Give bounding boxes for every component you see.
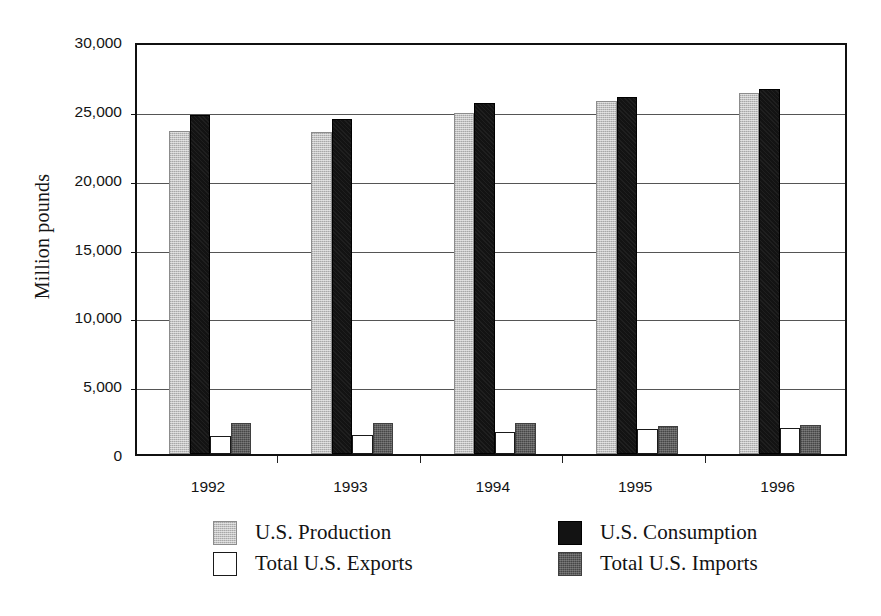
bars-layer bbox=[137, 45, 845, 454]
bar-production-1992 bbox=[169, 131, 190, 454]
x-tickmark bbox=[562, 456, 563, 463]
legend-label: Total U.S. Exports bbox=[255, 551, 413, 576]
bar-imports-1995 bbox=[658, 426, 679, 454]
legend-swatch-production-icon bbox=[213, 521, 237, 545]
bar-exports-1993 bbox=[352, 435, 373, 454]
bar-production-1994 bbox=[454, 113, 475, 454]
legend-swatch-imports-icon bbox=[558, 552, 582, 576]
bar-chart-figure: Million pounds 05,00010,00015,00020,0002… bbox=[0, 0, 881, 616]
bar-exports-1994 bbox=[495, 432, 516, 454]
x-tick-label: 1996 bbox=[760, 478, 794, 496]
legend-swatch-consumption-icon bbox=[558, 521, 582, 545]
bar-consumption-1993 bbox=[332, 119, 353, 454]
plot-area bbox=[135, 43, 847, 456]
bar-consumption-1995 bbox=[617, 97, 638, 454]
bar-consumption-1994 bbox=[474, 103, 495, 454]
chart-legend: U.S. ProductionU.S. ConsumptionTotal U.S… bbox=[213, 520, 773, 590]
legend-label: U.S. Consumption bbox=[600, 520, 757, 545]
bar-consumption-1996 bbox=[759, 89, 780, 454]
y-axis-tick-labels: 05,00010,00015,00020,00025,00030,000 bbox=[38, 43, 130, 456]
legend-item-production[interactable]: U.S. Production bbox=[213, 520, 391, 545]
x-tick-label: 1993 bbox=[333, 478, 367, 496]
legend-item-consumption[interactable]: U.S. Consumption bbox=[558, 520, 757, 545]
y-tick-label: 15,000 bbox=[75, 241, 122, 259]
y-tick-label: 30,000 bbox=[75, 34, 122, 52]
bar-imports-1996 bbox=[800, 425, 821, 454]
legend-swatch-exports-icon bbox=[213, 552, 237, 576]
x-tickmark bbox=[420, 456, 421, 463]
bar-consumption-1992 bbox=[190, 115, 211, 454]
bar-production-1993 bbox=[311, 132, 332, 454]
bar-exports-1992 bbox=[210, 436, 231, 454]
bar-production-1996 bbox=[739, 93, 760, 454]
bar-imports-1992 bbox=[231, 423, 252, 454]
bar-imports-1994 bbox=[515, 423, 536, 454]
x-tickmark bbox=[277, 456, 278, 463]
bar-exports-1996 bbox=[780, 428, 801, 454]
x-axis-tick-labels: 19921993199419951996 bbox=[135, 456, 847, 496]
legend-item-imports[interactable]: Total U.S. Imports bbox=[558, 551, 758, 576]
x-tick-label: 1992 bbox=[191, 478, 225, 496]
legend-label: Total U.S. Imports bbox=[600, 551, 758, 576]
y-tick-label: 25,000 bbox=[75, 103, 122, 121]
bar-production-1995 bbox=[596, 101, 617, 454]
x-tick-label: 1994 bbox=[476, 478, 510, 496]
x-tickmark bbox=[705, 456, 706, 463]
y-tick-label: 10,000 bbox=[75, 309, 122, 327]
y-tick-label: 5,000 bbox=[83, 378, 122, 396]
y-tick-label: 0 bbox=[113, 447, 122, 465]
x-tick-label: 1995 bbox=[618, 478, 652, 496]
legend-label: U.S. Production bbox=[255, 520, 391, 545]
bar-exports-1995 bbox=[637, 429, 658, 454]
bar-imports-1993 bbox=[373, 423, 394, 454]
legend-item-exports[interactable]: Total U.S. Exports bbox=[213, 551, 413, 576]
y-tick-label: 20,000 bbox=[75, 172, 122, 190]
